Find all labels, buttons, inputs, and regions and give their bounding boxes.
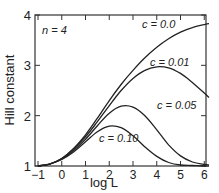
x-axis-label: log L <box>90 175 118 190</box>
curve-series-0 <box>38 24 209 166</box>
label-c-005: c = 0.05 <box>157 99 197 111</box>
x-tick-label: 4 <box>153 168 160 182</box>
hill-constant-chart: −101234561234 n = 4 c = 0.0 c = 0.01 c =… <box>0 0 219 193</box>
x-tick-label: 1 <box>82 168 89 182</box>
x-tick-label: −1 <box>31 168 45 182</box>
label-c-010: c = 0.10 <box>99 132 139 144</box>
label-c-0: c = 0.0 <box>142 18 176 30</box>
x-tick-label: 6 <box>201 168 208 182</box>
x-tick-label: 5 <box>177 168 184 182</box>
n-annotation: n = 4 <box>42 24 67 36</box>
y-axis-label: Hill constant <box>2 54 17 125</box>
label-c-001: c = 0.01 <box>150 56 189 68</box>
y-tick-label: 2 <box>24 109 31 124</box>
x-tick-label: 0 <box>58 168 65 182</box>
y-tick-label: 1 <box>24 159 31 174</box>
x-tick-label: 3 <box>130 168 137 182</box>
y-tick-label: 3 <box>24 58 31 73</box>
y-tick-label: 4 <box>24 8 31 23</box>
curves <box>38 24 209 166</box>
